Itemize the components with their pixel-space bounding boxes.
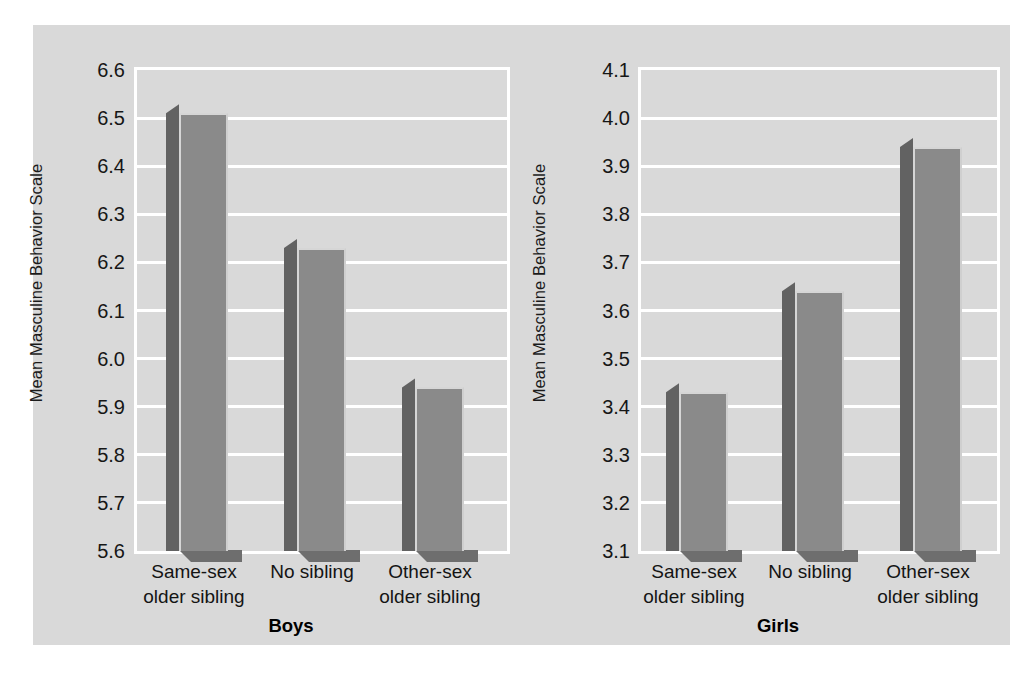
y-axis-tick-label: 5.9 [97, 397, 125, 417]
y-axis-tick-label: 3.8 [602, 204, 630, 224]
panel-title-boys: Boys [71, 615, 511, 637]
y-axis-tick-label: 6.2 [97, 252, 125, 272]
plot-inner-girls: 4.14.03.93.83.73.63.53.43.33.23.1 [641, 70, 997, 551]
y-axis-tick-label: 3.9 [602, 156, 630, 176]
bar [284, 239, 346, 551]
y-axis-tick-label: 3.5 [602, 349, 630, 369]
y-axis-tick-label: 4.1 [602, 60, 630, 80]
y-axis-tick-label: 4.0 [602, 108, 630, 128]
y-axis-tick-label: 3.3 [602, 445, 630, 465]
y-axis-tick-label: 6.0 [97, 349, 125, 369]
y-axis-tick-label: 5.8 [97, 445, 125, 465]
panel-title-girls: Girls [558, 615, 998, 637]
category-label-line: Other-sex [833, 559, 1023, 584]
bar-front-face [679, 392, 728, 551]
category-label-line: Other-sex [335, 559, 525, 584]
y-axis-tick-label: 3.4 [602, 397, 630, 417]
plot-area-boys: 6.66.56.46.36.26.16.05.95.85.75.6 [134, 67, 510, 554]
y-axis-tick-label: 5.6 [97, 541, 125, 561]
category-labels-girls: Same-sexolder siblingNo siblingOther-sex… [538, 559, 1010, 619]
y-axis-tick-label: 6.5 [97, 108, 125, 128]
y-axis-tick-label: 3.6 [602, 301, 630, 321]
plot-area-girls: 4.14.03.93.83.73.63.53.43.33.23.1 [638, 67, 1000, 554]
y-axis-tick-label: 3.7 [602, 252, 630, 272]
y-axis-tick-label: 6.1 [97, 301, 125, 321]
bar-front-face [795, 291, 844, 551]
category-label-line: older sibling [833, 584, 1023, 609]
category-label-line: older sibling [335, 584, 525, 609]
category-label-line: older sibling [99, 584, 289, 609]
bar-front-face [179, 113, 228, 551]
plot-inner-boys: 6.66.56.46.36.26.16.05.95.85.75.6 [137, 70, 507, 551]
category-label: Other-sexolder sibling [335, 559, 525, 609]
chart-panel-girls: Mean Masculine Behavior Scale 4.14.03.93… [538, 25, 1010, 645]
chart-panel-boys: Mean Masculine Behavior Scale 6.66.56.46… [33, 25, 538, 645]
bar [402, 378, 464, 551]
gridline [641, 117, 997, 120]
y-axis-tick-label: 5.7 [97, 493, 125, 513]
category-label-line: older sibling [599, 584, 789, 609]
y-axis-tick-label: 6.4 [97, 156, 125, 176]
y-axis-title-boys: Mean Masculine Behavior Scale [27, 143, 46, 423]
y-axis-title-girls: Mean Masculine Behavior Scale [530, 143, 549, 423]
y-axis-tick-label: 3.1 [602, 541, 630, 561]
bar [666, 383, 728, 551]
y-axis-tick-label: 6.6 [97, 60, 125, 80]
bar-front-face [415, 387, 464, 551]
bar [782, 282, 844, 551]
y-axis-tick-label: 6.3 [97, 204, 125, 224]
bar-front-face [297, 248, 346, 551]
bar [900, 138, 962, 551]
figure-panel: Mean Masculine Behavior Scale 6.66.56.46… [33, 25, 1010, 645]
bar [166, 104, 228, 551]
y-axis-tick-label: 3.2 [602, 493, 630, 513]
category-label: Other-sexolder sibling [833, 559, 1023, 609]
bar-front-face [913, 147, 962, 551]
category-labels-boys: Same-sexolder siblingNo siblingOther-sex… [33, 559, 538, 619]
